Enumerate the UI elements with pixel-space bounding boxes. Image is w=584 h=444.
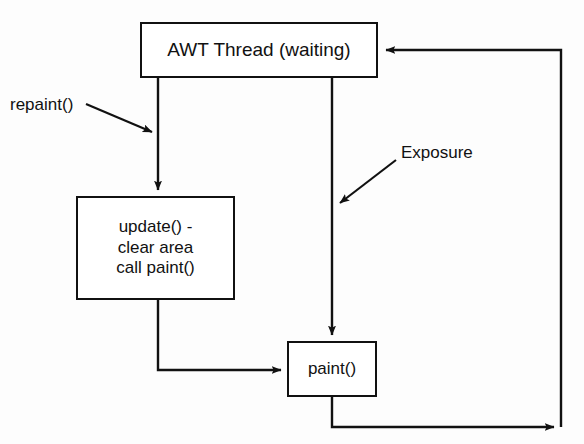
- node-update-label: update() - clear area call paint(): [112, 217, 198, 279]
- node-awt-thread[interactable]: AWT Thread (waiting): [140, 22, 378, 78]
- edge-repaint-trigger: [86, 104, 152, 132]
- node-awt-thread-label: AWT Thread (waiting): [163, 38, 354, 61]
- edge-update-to-paint: [158, 300, 281, 370]
- edge-exposure-trigger: [340, 160, 396, 203]
- node-paint[interactable]: paint(): [287, 341, 377, 397]
- annotation-exposure: Exposure: [401, 143, 473, 163]
- node-paint-label: paint(): [304, 359, 360, 380]
- node-update[interactable]: update() - clear area call paint(): [76, 196, 235, 300]
- diagram-canvas: AWT Thread (waiting) update() - clear ar…: [0, 0, 584, 444]
- annotation-repaint: repaint(): [10, 95, 73, 115]
